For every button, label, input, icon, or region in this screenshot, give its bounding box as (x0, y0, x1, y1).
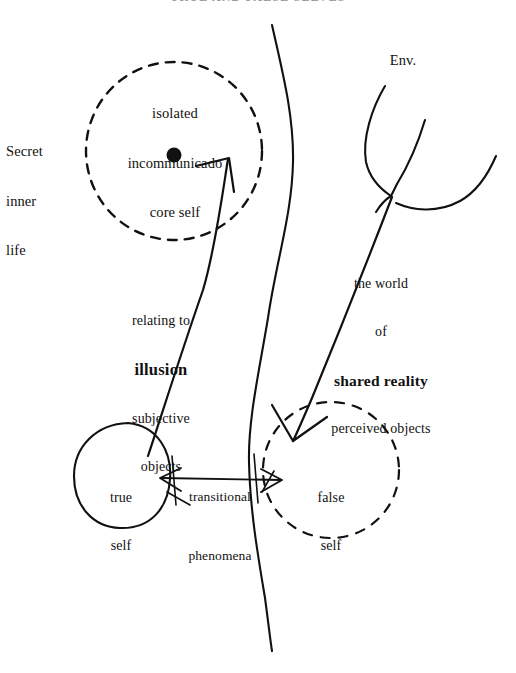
diagram-canvas: TRUE AND FALSE SELVES Secret inner life … (0, 0, 516, 673)
label-env: Env. (376, 52, 430, 69)
false-self-line2: self (300, 538, 362, 554)
shared-reality-line2: of (306, 324, 456, 340)
secret-inner-life-line2: inner (6, 193, 72, 210)
core-self-line3: core self (96, 204, 254, 221)
shared-reality-line3: shared reality (306, 372, 456, 390)
shared-reality-line1: the world (306, 276, 456, 292)
label-transitional-phenomena: transitional phenomena (168, 458, 272, 594)
label-true-self: true self (90, 458, 152, 586)
secret-inner-life-line1: Secret (6, 143, 72, 160)
label-shared-reality-block: the world of shared reality perceived ob… (306, 244, 456, 469)
transitional-line2: phenomena (168, 548, 272, 563)
label-secret-inner-life: Secret inner life (6, 110, 72, 292)
true-self-line1: true (90, 490, 152, 506)
page-title: TRUE AND FALSE SELVES (0, 0, 516, 5)
illusion-line1: relating to (98, 313, 224, 329)
label-false-self: false self (300, 458, 362, 586)
false-self-line1: false (300, 490, 362, 506)
env-branch-right-curve (396, 156, 496, 210)
illusion-line2: illusion (98, 361, 224, 380)
secret-inner-life-line3: life (6, 242, 72, 259)
true-self-line2: self (90, 538, 152, 554)
illusion-line3: subjective (98, 411, 224, 427)
transitional-line1: transitional (168, 489, 272, 504)
label-core-self: isolated incommunicado core self (96, 72, 254, 254)
shared-reality-line4: perceived objects (306, 421, 456, 437)
env-branch-upper-right (391, 120, 425, 196)
env-branch-upper-left (365, 86, 391, 196)
core-self-line1: isolated (96, 105, 254, 122)
core-self-line2: incommunicado (96, 155, 254, 172)
